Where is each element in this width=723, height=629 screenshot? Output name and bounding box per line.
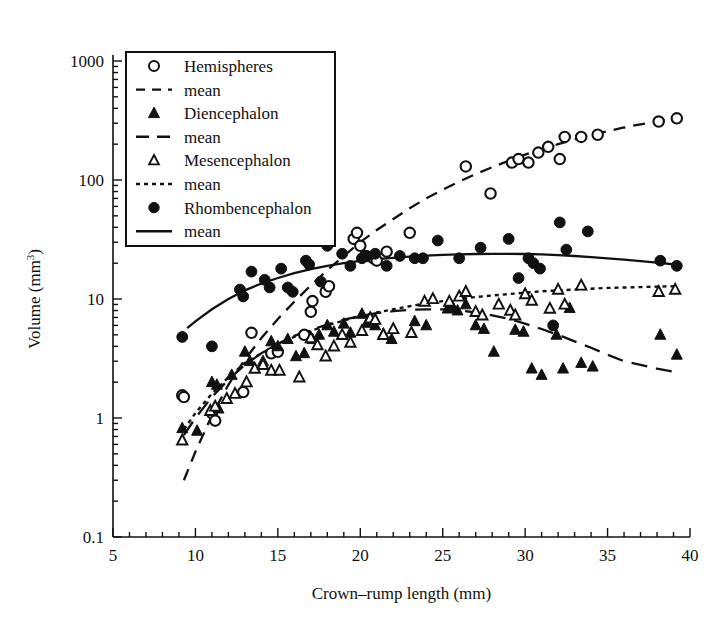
point-hemispheres	[560, 132, 570, 142]
legend-label: Hemispheres	[184, 57, 273, 76]
legend-label: Rhombencephalon	[184, 199, 312, 218]
point-rhombencephalon	[287, 286, 298, 297]
point-hemispheres	[592, 130, 602, 140]
point-hemispheres	[533, 147, 543, 157]
point-rhombencephalon	[432, 235, 443, 246]
legend-label: Diencephalon	[184, 104, 279, 123]
legend-label: Mesencephalon	[184, 151, 291, 170]
point-rhombencephalon	[207, 341, 218, 352]
point-hemispheres	[461, 161, 471, 171]
point-hemispheres	[543, 142, 553, 152]
chart-legend: HemispheresmeanDiencephalonmeanMesenceph…	[126, 52, 335, 246]
point-rhombencephalon	[381, 260, 392, 271]
x-tick-label: 25	[434, 546, 451, 565]
point-rhombencephalon	[418, 253, 429, 264]
point-rhombencephalon	[475, 242, 486, 253]
point-rhombencephalon	[454, 253, 465, 264]
point-rhombencephalon	[671, 260, 682, 271]
point-rhombencephalon	[276, 263, 287, 274]
x-tick-label: 10	[187, 546, 204, 565]
chart-root: 5101520253035400.11101001000Crown–rump l…	[0, 0, 723, 629]
point-hemispheres	[555, 154, 565, 164]
point-hemispheres	[210, 415, 220, 425]
point-rhombencephalon	[304, 259, 315, 270]
y-tick-label: 1000	[70, 52, 104, 71]
point-hemispheres	[485, 188, 495, 198]
point-rhombencephalon	[503, 233, 514, 244]
point-hemispheres	[307, 296, 317, 306]
point-rhombencephalon	[394, 251, 405, 262]
point-rhombencephalon	[582, 226, 593, 237]
point-rhombencephalon	[561, 244, 572, 255]
legend-label: mean	[184, 128, 221, 147]
point-hemispheres	[653, 116, 663, 126]
point-rhombencephalon	[655, 255, 666, 266]
legend-label: mean	[184, 81, 221, 100]
point-rhombencephalon	[548, 320, 559, 331]
legend-marker-filled-circle	[149, 202, 159, 212]
x-tick-label: 15	[269, 546, 286, 565]
x-tick-label: 35	[599, 546, 616, 565]
point-hemispheres	[246, 328, 256, 338]
legend-label: mean	[184, 222, 221, 241]
scatter-plot: 5101520253035400.11101001000Crown–rump l…	[0, 0, 723, 629]
x-tick-label: 30	[517, 546, 534, 565]
y-tick-label: 1	[96, 409, 105, 428]
point-hemispheres	[179, 392, 189, 402]
point-rhombencephalon	[554, 217, 565, 228]
point-rhombencephalon	[513, 273, 524, 284]
point-rhombencephalon	[535, 263, 546, 274]
point-hemispheres	[405, 228, 415, 238]
point-rhombencephalon	[177, 332, 188, 343]
legend-marker-open-circle	[149, 61, 159, 71]
y-tick-label: 100	[79, 171, 105, 190]
point-hemispheres	[576, 132, 586, 142]
point-hemispheres	[306, 307, 316, 317]
point-hemispheres	[381, 246, 391, 256]
point-rhombencephalon	[315, 276, 326, 287]
point-rhombencephalon	[370, 248, 381, 259]
x-axis-title: Crown–rump length (mm)	[312, 584, 491, 603]
y-tick-label: 10	[87, 290, 104, 309]
point-hemispheres	[523, 157, 533, 167]
x-tick-label: 5	[109, 546, 118, 565]
x-tick-label: 20	[352, 546, 369, 565]
point-rhombencephalon	[238, 291, 249, 302]
y-tick-label: 0.1	[83, 528, 104, 547]
point-hemispheres	[355, 241, 365, 251]
point-rhombencephalon	[246, 266, 257, 277]
x-tick-label: 40	[682, 546, 699, 565]
point-rhombencephalon	[264, 282, 275, 293]
y-axis-title: Volume (mm3)	[24, 249, 44, 349]
point-rhombencephalon	[345, 260, 356, 271]
point-hemispheres	[352, 228, 362, 238]
legend-label: mean	[184, 175, 221, 194]
point-hemispheres	[513, 154, 523, 164]
point-rhombencephalon	[337, 248, 348, 259]
point-hemispheres	[672, 113, 682, 123]
